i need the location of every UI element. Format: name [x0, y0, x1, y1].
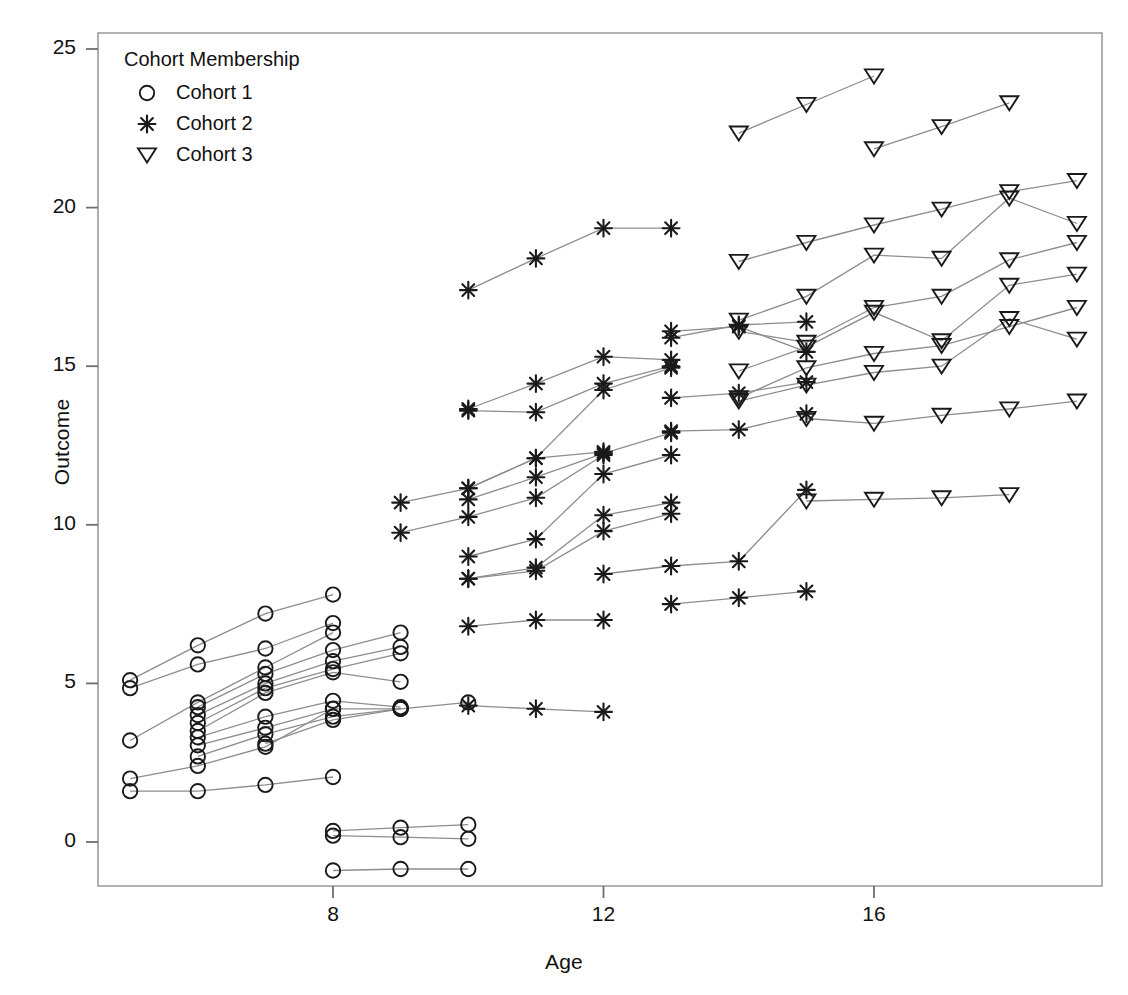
data-point-marker: [865, 142, 883, 156]
data-point-marker: [595, 220, 612, 237]
asterisk-icon: [130, 111, 164, 137]
data-point-marker: [730, 364, 748, 378]
data-point-marker: [460, 697, 477, 714]
data-point-marker: [528, 450, 545, 467]
data-point-marker: [798, 313, 815, 330]
y-tick-label: 5: [20, 669, 76, 693]
data-point-marker: [730, 255, 748, 269]
legend-label-cohort-3: Cohort 3: [176, 143, 253, 166]
data-point-marker: [460, 282, 477, 299]
data-point-marker: [595, 612, 612, 629]
data-point-marker: [595, 445, 612, 462]
chart-legend: Cohort Membership Cohort 1 Cohort 2 Coho…: [124, 48, 300, 170]
data-point-marker: [528, 531, 545, 548]
series-line: [333, 869, 468, 871]
series-line: [468, 228, 671, 290]
series-line: [739, 181, 1077, 262]
data-point-marker: [798, 482, 815, 499]
data-point-marker: [730, 553, 747, 570]
series-line: [130, 623, 333, 688]
series-line: [874, 103, 1009, 149]
series-line: [739, 319, 1077, 402]
data-point-marker: [663, 558, 680, 575]
series-line: [468, 433, 671, 500]
y-tick-label: 25: [20, 35, 76, 59]
series-line: [468, 503, 671, 579]
data-point-marker: [392, 494, 409, 511]
series-markers-group: [123, 69, 1086, 877]
data-point-marker: [528, 375, 545, 392]
series-line: [468, 366, 671, 412]
data-point-marker: [730, 421, 747, 438]
series-line: [604, 490, 807, 574]
data-point-marker: [663, 390, 680, 407]
data-point-marker: [663, 323, 680, 340]
data-point-marker: [528, 404, 545, 421]
data-point-marker: [663, 447, 680, 464]
legend-label-cohort-2: Cohort 2: [176, 112, 253, 135]
data-point-marker: [595, 348, 612, 365]
series-line: [130, 709, 333, 779]
data-point-marker: [595, 704, 612, 721]
data-point-marker: [595, 566, 612, 583]
series-line: [806, 401, 1077, 423]
legend-item-cohort-3[interactable]: Cohort 3: [130, 139, 300, 170]
data-point-marker: [663, 359, 680, 376]
x-tick-label: 12: [574, 902, 634, 926]
data-point-marker: [595, 382, 612, 399]
down-triangle-icon: [130, 142, 164, 168]
data-point-marker: [1068, 217, 1086, 231]
data-point-marker: [663, 596, 680, 613]
x-axis-title: Age: [0, 950, 1128, 974]
y-tick-label: 0: [20, 828, 76, 852]
data-point-marker: [460, 402, 477, 419]
series-line: [401, 455, 604, 533]
x-tick-label: 8: [303, 902, 363, 926]
data-point-marker: [595, 523, 612, 540]
legend-title: Cohort Membership: [124, 48, 300, 71]
series-line: [333, 836, 468, 839]
series-line: [198, 633, 401, 708]
legend-label-cohort-1: Cohort 1: [176, 81, 253, 104]
data-point-marker: [460, 548, 477, 565]
series-line: [468, 357, 671, 409]
series-line: [468, 368, 671, 489]
data-point-marker: [798, 583, 815, 600]
series-line: [739, 243, 1077, 343]
data-point-marker: [528, 700, 545, 717]
data-point-marker: [528, 250, 545, 267]
data-point-marker: [663, 505, 680, 522]
data-point-marker: [595, 507, 612, 524]
data-point-marker: [460, 618, 477, 635]
series-line: [130, 595, 333, 681]
series-line: [198, 672, 401, 731]
data-point-marker: [528, 469, 545, 486]
x-tick-label: 16: [844, 902, 904, 926]
data-point-marker: [798, 405, 815, 422]
series-line: [130, 777, 333, 791]
data-point-marker: [460, 570, 477, 587]
data-point-marker: [528, 562, 545, 579]
y-axis-title: Outcome: [50, 362, 74, 522]
data-point-marker: [730, 127, 748, 141]
data-point-marker: [730, 589, 747, 606]
data-point-marker: [595, 466, 612, 483]
chart-figure: 0510152025 81216 Outcome Age Cohort Memb…: [0, 0, 1128, 995]
data-point-marker: [392, 524, 409, 541]
data-point-marker: [528, 612, 545, 629]
series-line: [198, 709, 401, 757]
legend-item-cohort-1[interactable]: Cohort 1: [130, 77, 300, 108]
y-tick-label: 20: [20, 194, 76, 218]
open-circle-icon: [130, 80, 164, 106]
legend-item-cohort-2[interactable]: Cohort 2: [130, 108, 300, 139]
series-line: [401, 452, 604, 503]
data-point-marker: [528, 489, 545, 506]
series-line: [806, 495, 1009, 501]
data-point-marker: [663, 220, 680, 237]
series-line: [739, 76, 874, 133]
data-point-marker: [1068, 333, 1086, 347]
data-point-marker: [460, 509, 477, 526]
data-point-marker: [460, 491, 477, 508]
data-point-marker: [663, 423, 680, 440]
